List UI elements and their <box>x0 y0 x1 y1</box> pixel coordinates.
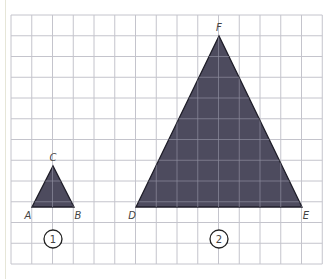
triangle-number-1: 1 <box>50 234 56 245</box>
vertex-label-c: C <box>50 152 57 163</box>
similar-triangles-diagram: ABC1DEF2 <box>0 0 332 279</box>
grid <box>11 15 322 264</box>
vertex-label-b: B <box>75 210 82 221</box>
vertex-label-f: F <box>216 22 222 33</box>
vertex-label-e: E <box>303 210 310 221</box>
vertex-label-d: D <box>128 210 136 221</box>
triangle-number-2: 2 <box>216 234 222 245</box>
vertex-label-a: A <box>24 210 32 221</box>
